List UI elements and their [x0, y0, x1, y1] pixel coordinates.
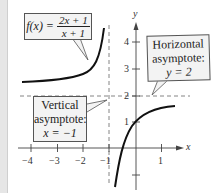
callout-line: asymptote:: [34, 113, 86, 127]
callout-line: y = 2: [148, 65, 209, 80]
vertical-asymptote-callout: Vertical asymptote: x = −1: [33, 96, 87, 142]
function-numerator: 2x + 1: [57, 14, 90, 27]
function-fraction: 2x + 1 x + 1: [57, 14, 90, 39]
y-tick-label: 3: [124, 63, 129, 74]
x-tick-label: 1: [158, 155, 163, 166]
x-axis-arrow-icon: [176, 146, 184, 151]
x-tick-label: −4: [22, 155, 33, 166]
x-axis-label: x: [186, 141, 190, 152]
x-tick-label: −1: [100, 155, 111, 166]
y-axis-arrow-icon: [134, 22, 139, 30]
function-denominator: x + 1: [60, 27, 87, 39]
function-callout-pointer: [72, 38, 88, 60]
function-label-prefix: f(x) =: [26, 20, 54, 34]
horizontal-asymptote-callout: Horizontal asymptote: y = 2: [146, 34, 210, 82]
x-tick-label: −3: [49, 155, 60, 166]
x-tick-label: −2: [75, 155, 86, 166]
function-label-callout: f(x) = 2x + 1 x + 1: [24, 13, 92, 40]
y-tick-label: 4: [124, 36, 129, 47]
vertical-callout-pointer: [87, 100, 107, 112]
y-tick-label: 1: [124, 116, 129, 127]
callout-line: x = −1: [34, 127, 86, 141]
y-tick-label: 2: [124, 90, 129, 101]
y-axis-label: y: [133, 8, 137, 19]
callout-line: Vertical: [34, 99, 86, 113]
horizontal-callout-pointer: [152, 80, 168, 95]
